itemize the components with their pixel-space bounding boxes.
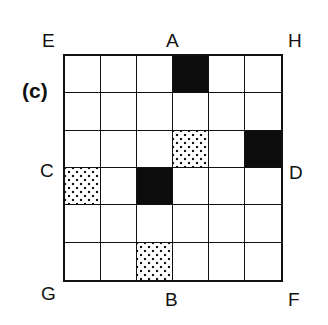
grid-cell-white — [137, 205, 173, 242]
grid-cell-white — [173, 168, 209, 205]
grid-cell-white — [209, 131, 245, 168]
grid-cell-dotted — [173, 131, 209, 168]
label-h: H — [288, 31, 302, 50]
grid-cell-white — [245, 205, 281, 242]
grid-cell-white — [245, 56, 281, 93]
grid-cell-white — [101, 93, 137, 130]
grid-cell-white — [65, 131, 101, 168]
panel-label: (c) — [22, 80, 48, 101]
grid-cell-white — [65, 205, 101, 242]
label-c: C — [40, 161, 54, 180]
grid-cell-white — [209, 205, 245, 242]
grid-cell-white — [173, 93, 209, 130]
grid-cell-white — [209, 168, 245, 205]
grid-cell-white — [173, 205, 209, 242]
checker-grid — [63, 54, 283, 282]
label-a: A — [166, 31, 179, 50]
label-f: F — [288, 290, 300, 309]
grid-cell-white — [245, 243, 281, 280]
grid-cell-white — [245, 168, 281, 205]
grid-cell-white — [101, 243, 137, 280]
grid-cell-white — [209, 56, 245, 93]
grid-cell-dotted — [137, 243, 173, 280]
grid-cell-white — [101, 56, 137, 93]
grid-cell-white — [137, 131, 173, 168]
grid-cell-white — [245, 93, 281, 130]
grid-cell-white — [65, 56, 101, 93]
label-b: B — [165, 290, 178, 309]
grid-cell-white — [65, 243, 101, 280]
label-e: E — [42, 31, 55, 50]
grid-cell-white — [173, 243, 209, 280]
grid-cell-black — [173, 56, 209, 93]
grid-cell-white — [209, 93, 245, 130]
grid-cell-white — [137, 93, 173, 130]
grid-cell-white — [65, 93, 101, 130]
grid-cell-dotted — [65, 168, 101, 205]
grid-cell-white — [101, 168, 137, 205]
grid-cell-black — [137, 168, 173, 205]
grid-cell-white — [101, 131, 137, 168]
label-d: D — [289, 163, 303, 182]
grid-cell-white — [101, 205, 137, 242]
grid-cell-white — [209, 243, 245, 280]
grid-cell-black — [245, 131, 281, 168]
grid-cell-white — [137, 56, 173, 93]
label-g: G — [41, 284, 56, 303]
